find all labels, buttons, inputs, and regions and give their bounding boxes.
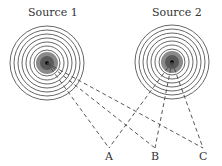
point-c-label: C	[199, 150, 207, 163]
point-b-label: B	[151, 150, 159, 163]
source-1-label: Source 1	[28, 6, 78, 19]
source-2-label: Source 2	[152, 6, 202, 19]
point-a-label: A	[105, 150, 113, 163]
path-lines	[47, 62, 203, 148]
interference-diagram	[0, 0, 222, 166]
